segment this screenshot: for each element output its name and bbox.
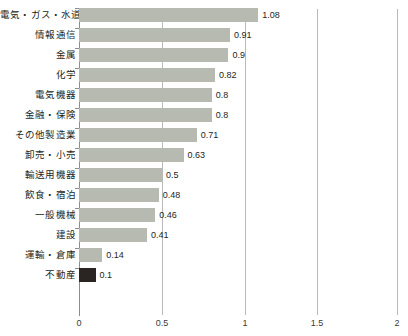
bar-row: 金属0.9 [0, 45, 408, 65]
bar-value-label: 0.5 [166, 169, 179, 181]
xtick-label-1.5: 1.5 [311, 318, 324, 329]
category-label: 一般機械 [0, 208, 76, 222]
bar-value-label: 0.91 [234, 29, 252, 41]
xtick-label-2: 2 [394, 318, 399, 329]
bar-value-label: 0.82 [219, 69, 237, 81]
bar-value-label: 0.48 [163, 189, 181, 201]
bar[interactable] [79, 188, 159, 202]
category-label: 金属 [0, 48, 76, 62]
category-label: 運輸・倉庫 [0, 248, 76, 262]
bar-value-label: 0.8 [216, 109, 229, 121]
bar-row: 輸送用機器0.5 [0, 165, 408, 185]
bar-value-label: 0.14 [106, 249, 124, 261]
category-label: 建設 [0, 228, 76, 242]
bar-row: 金融・保険0.8 [0, 105, 408, 125]
bar-highlighted[interactable] [79, 268, 96, 282]
bar-value-label: 0.1 [100, 269, 113, 281]
xtick-label-1: 1 [242, 318, 247, 329]
bar-value-label: 1.08 [262, 9, 280, 21]
category-label: 情報通信 [0, 28, 76, 42]
bar[interactable] [79, 28, 230, 42]
bar[interactable] [79, 48, 228, 62]
category-label: 電気機器 [0, 88, 76, 102]
category-label: 飲食・宿泊 [0, 188, 76, 202]
bar-row: 建設0.41 [0, 225, 408, 245]
category-label: 金融・保険 [0, 108, 76, 122]
bar-value-label: 0.46 [159, 209, 177, 221]
bar-value-label: 0.8 [216, 89, 229, 101]
category-label: その他製造業 [0, 128, 76, 142]
bar-value-label: 0.9 [232, 49, 245, 61]
bar-row: 電気・ガス・水道1.08 [0, 5, 408, 25]
bar-row: 卸売・小売0.63 [0, 145, 408, 165]
bar-row: 運輸・倉庫0.14 [0, 245, 408, 265]
bar-row: 化学0.82 [0, 65, 408, 85]
bar-value-label: 0.41 [151, 229, 169, 241]
bar[interactable] [79, 68, 215, 82]
bar-value-label: 0.71 [201, 129, 219, 141]
category-label: 化学 [0, 68, 76, 82]
category-label: 不動産 [0, 268, 76, 282]
bar-row: 一般機械0.46 [0, 205, 408, 225]
plot-area: 0 0.5 1 1.5 2 電気・ガス・水道1.08情報通信0.91金属0.9化… [0, 0, 408, 336]
bar-row: 情報通信0.91 [0, 25, 408, 45]
xtick-label-0: 0 [76, 318, 81, 329]
category-label: 輸送用機器 [0, 168, 76, 182]
bar[interactable] [79, 8, 258, 22]
bar[interactable] [79, 248, 102, 262]
bar[interactable] [79, 228, 147, 242]
bar[interactable] [79, 148, 184, 162]
xtick-label-0.5: 0.5 [156, 318, 169, 329]
bar[interactable] [79, 128, 197, 142]
bar[interactable] [79, 88, 212, 102]
bar-row: 飲食・宿泊0.48 [0, 185, 408, 205]
category-label: 電気・ガス・水道 [0, 8, 76, 22]
horizontal-bar-chart: 0 0.5 1 1.5 2 電気・ガス・水道1.08情報通信0.91金属0.9化… [0, 0, 408, 336]
bar-row: 電気機器0.8 [0, 85, 408, 105]
bar-value-label: 0.63 [188, 149, 206, 161]
bar-row: 不動産0.1 [0, 265, 408, 285]
bar[interactable] [79, 208, 155, 222]
bar[interactable] [79, 108, 212, 122]
bar[interactable] [79, 168, 162, 182]
bar-row: その他製造業0.71 [0, 125, 408, 145]
category-label: 卸売・小売 [0, 148, 76, 162]
